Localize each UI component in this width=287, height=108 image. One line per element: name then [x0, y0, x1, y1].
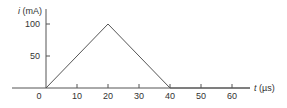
chart: 0 10 20 30 40 50 60 100 50 i (mA) t (µs)	[0, 0, 287, 108]
series-line-current	[46, 24, 250, 88]
x-ticks	[77, 84, 232, 88]
x-tick-label: 0	[36, 91, 41, 101]
x-tick-label: 40	[165, 91, 175, 101]
y-axis-label: i (mA)	[18, 6, 42, 16]
y-ticks	[46, 24, 50, 56]
x-tick-label: 10	[72, 91, 82, 101]
x-axis-label: t (µs)	[254, 83, 275, 93]
x-tick-label: 30	[134, 91, 144, 101]
y-tick-label: 100	[25, 19, 40, 29]
y-tick-label: 50	[30, 51, 40, 61]
x-tick-label: 50	[196, 91, 206, 101]
x-tick-label: 60	[227, 91, 237, 101]
x-tick-label: 20	[103, 91, 113, 101]
